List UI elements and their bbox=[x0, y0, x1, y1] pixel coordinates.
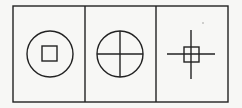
panel-2-circle-with-cross bbox=[97, 31, 143, 77]
circle-shape bbox=[27, 31, 73, 77]
panel-3-cross-with-square bbox=[167, 30, 215, 79]
figure-canvas bbox=[0, 0, 242, 108]
figure-sequence bbox=[0, 0, 242, 108]
panel-1-circle-with-square bbox=[27, 31, 73, 77]
scan-artifact-dot bbox=[202, 22, 203, 23]
square-shape bbox=[42, 46, 57, 61]
